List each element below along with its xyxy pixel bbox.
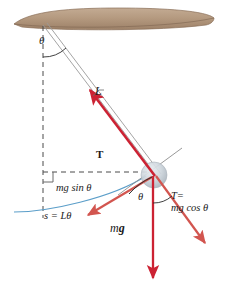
right-angle-marker xyxy=(43,172,53,182)
tension-force-arrow xyxy=(90,90,155,176)
angle-arc-at-bob xyxy=(153,196,172,203)
label-weight-gravity: g xyxy=(119,221,125,235)
label-tension-equation-line2: mg cos θ xyxy=(171,202,208,214)
pendulum-figure: θ L T mg sin θ s = Lθ θ T= mg cos θ mg xyxy=(0,0,225,293)
label-theta-pivot: θ xyxy=(39,34,44,47)
label-theta-bob: θ xyxy=(138,191,143,203)
label-weight: mg xyxy=(110,222,125,236)
label-mg-sin-theta: mg sin θ xyxy=(56,182,92,194)
label-tension-equation: T= mg cos θ xyxy=(171,190,208,214)
diagram-canvas xyxy=(0,0,225,293)
label-string-length: L xyxy=(95,85,102,99)
label-tension-equation-line1: T= xyxy=(171,190,184,201)
label-arc-length: s = Lθ xyxy=(44,210,71,222)
label-tension: T xyxy=(96,148,103,161)
label-weight-mass: m xyxy=(110,221,119,235)
angle-arc-at-pivot xyxy=(43,48,66,57)
